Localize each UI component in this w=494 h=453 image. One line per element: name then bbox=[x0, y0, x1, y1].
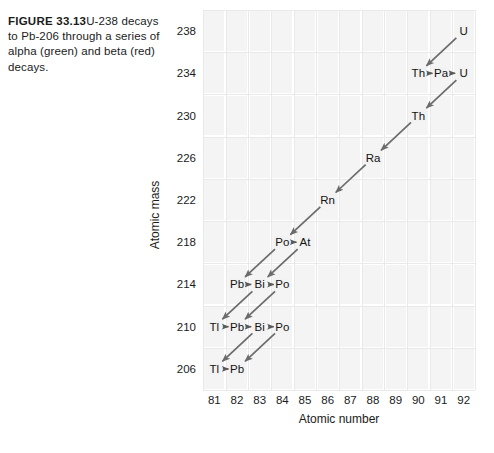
nuclide-label: U bbox=[459, 67, 469, 79]
nuclide-label: Pb bbox=[229, 278, 245, 290]
x-tick-label: 86 bbox=[321, 394, 334, 406]
x-tick-label: 83 bbox=[253, 394, 266, 406]
x-tick-label: 82 bbox=[231, 394, 244, 406]
alpha-decay-arrow bbox=[336, 165, 366, 193]
figure-33-13: FIGURE 33.13U-238 decays to Pb-206 throu… bbox=[0, 0, 494, 453]
alpha-decay-arrow bbox=[245, 291, 275, 319]
alpha-decay-arrow bbox=[268, 249, 298, 277]
y-tick-label: 218 bbox=[177, 236, 196, 248]
alpha-decay-arrow bbox=[222, 333, 252, 361]
nuclide-label: Th bbox=[411, 67, 426, 79]
alpha-decay-arrow bbox=[426, 80, 456, 108]
x-tick-label: 88 bbox=[367, 394, 380, 406]
nuclide-label: Bi bbox=[254, 278, 266, 290]
y-tick-label: 214 bbox=[177, 278, 196, 290]
nuclide-label: Pb bbox=[229, 321, 245, 333]
x-tick-label: 85 bbox=[299, 394, 312, 406]
figure-caption-label: FIGURE 33.13 bbox=[8, 15, 86, 27]
nuclide-label: Th bbox=[411, 110, 426, 122]
nuclide-label: Po bbox=[274, 278, 290, 290]
nuclide-label: Tl bbox=[209, 321, 221, 333]
alpha-decay-arrow bbox=[245, 333, 275, 361]
nuclide-label: At bbox=[299, 236, 312, 248]
y-tick-label: 222 bbox=[177, 194, 196, 206]
nuclide-label: Tl bbox=[209, 363, 221, 375]
nuclide-label: Pa bbox=[433, 67, 449, 79]
plot-area: UThPaUThRaRnPoAtPbBiPoTlPbBiPoTlPb bbox=[203, 10, 475, 390]
alpha-decay-arrow bbox=[222, 291, 252, 319]
grid-line-vertical bbox=[475, 10, 476, 390]
x-tick-label: 92 bbox=[457, 394, 470, 406]
grid-line-horizontal bbox=[203, 390, 475, 391]
x-tick-label: 89 bbox=[389, 394, 402, 406]
nuclide-label: Ra bbox=[365, 152, 382, 164]
alpha-decay-arrow bbox=[245, 249, 275, 277]
alpha-decay-arrow bbox=[381, 122, 411, 150]
x-tick-label: 87 bbox=[344, 394, 357, 406]
y-tick-label: 234 bbox=[177, 67, 196, 79]
x-axis-title: Atomic number bbox=[203, 412, 475, 426]
y-axis-ticks: 238234230226222218214210206 bbox=[160, 10, 196, 390]
y-tick-label: 238 bbox=[177, 25, 196, 37]
y-tick-label: 206 bbox=[177, 363, 196, 375]
x-tick-label: 84 bbox=[276, 394, 289, 406]
nuclide-label: Po bbox=[274, 236, 290, 248]
figure-caption: FIGURE 33.13U-238 decays to Pb-206 throu… bbox=[8, 14, 160, 75]
nuclide-label: Po bbox=[274, 321, 290, 333]
y-tick-label: 230 bbox=[177, 110, 196, 122]
nuclide-label: Pb bbox=[229, 363, 245, 375]
x-tick-label: 91 bbox=[435, 394, 448, 406]
nuclide-label: Rn bbox=[319, 194, 336, 206]
y-tick-label: 226 bbox=[177, 152, 196, 164]
x-tick-label: 81 bbox=[208, 394, 221, 406]
x-tick-label: 90 bbox=[412, 394, 425, 406]
x-axis-ticks: 818283848586878889909192 bbox=[203, 394, 475, 410]
alpha-decay-arrow bbox=[290, 207, 320, 235]
y-tick-label: 210 bbox=[177, 321, 196, 333]
nuclide-label: U bbox=[459, 25, 469, 37]
alpha-decay-arrow bbox=[426, 38, 456, 66]
nuclide-label: Bi bbox=[254, 321, 266, 333]
